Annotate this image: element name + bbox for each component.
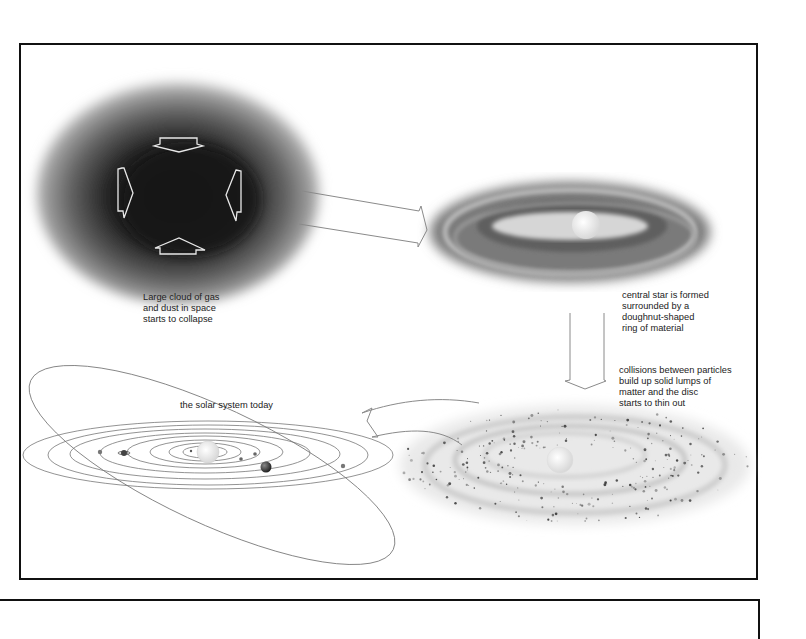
dust-speck (624, 449, 626, 451)
dust-speck (647, 433, 650, 436)
dust-speck (477, 477, 479, 479)
dust-speck (629, 506, 630, 507)
dust-speck (538, 481, 539, 482)
dust-speck (592, 505, 594, 507)
dust-speck (659, 475, 661, 477)
dust-speck (566, 438, 567, 439)
dust-speck (647, 508, 649, 510)
dust-speck (547, 519, 549, 521)
dust-speck (649, 486, 650, 487)
gas-cloud (36, 80, 320, 304)
dust-speck (588, 503, 591, 506)
dust-speck (638, 427, 639, 428)
dust-speck (457, 450, 458, 451)
dust-speck (517, 487, 518, 488)
dust-speck (536, 445, 538, 447)
dust-speck (682, 427, 684, 429)
dust-speck (541, 506, 543, 508)
dust-speck (538, 412, 540, 414)
dust-speck (643, 490, 646, 493)
dust-speck (689, 443, 692, 446)
dust-speck (667, 459, 668, 460)
dust-speck (642, 477, 643, 478)
dust-speck (670, 435, 671, 436)
dust-speck (500, 482, 502, 484)
dust-speck (500, 415, 501, 416)
dust-speck (553, 506, 554, 507)
planet-saturn (121, 450, 127, 456)
dust-speck (543, 483, 544, 484)
dust-speck (604, 481, 607, 484)
dust-speck (636, 462, 637, 463)
dust-speck (622, 486, 623, 487)
dust-speck (594, 440, 595, 441)
dust-speck (454, 471, 456, 473)
dust-speck (645, 486, 647, 488)
dust-speck (554, 489, 555, 490)
dust-speck (422, 481, 424, 483)
dust-speck (512, 474, 513, 475)
dust-speck (429, 484, 431, 486)
dust-speck (440, 471, 442, 473)
dust-speck (518, 515, 520, 517)
dust-speck (436, 479, 438, 481)
dust-speck (655, 460, 656, 461)
dust-speck (514, 457, 516, 459)
dust-speck (555, 512, 558, 515)
dust-speck (461, 450, 463, 452)
dust-speck (509, 476, 511, 478)
dust-speck (625, 517, 627, 519)
dust-speck (432, 472, 433, 473)
dust-speck (717, 489, 718, 490)
dust-speck (664, 486, 666, 488)
dust-speck (522, 448, 523, 449)
dust-speck (486, 470, 489, 473)
dust-speck (557, 521, 558, 522)
dust-speck (552, 514, 555, 517)
dust-speck (479, 446, 480, 447)
dust-speck (457, 437, 459, 439)
dust-speck (614, 441, 616, 443)
dust-speck (691, 464, 693, 466)
dust-speck (703, 455, 705, 457)
dust-speck (454, 502, 456, 504)
dust-speck (512, 421, 515, 424)
dust-speck (670, 499, 672, 501)
dust-speck (510, 449, 512, 451)
dust-speck (647, 500, 648, 501)
dust-speck (589, 419, 591, 421)
dust-speck (531, 442, 533, 444)
dust-speck (631, 486, 633, 488)
dust-speck (613, 447, 614, 448)
dust-speck (645, 458, 647, 460)
dust-speck (639, 517, 640, 518)
dust-speck (674, 469, 675, 470)
solar-system (6, 328, 418, 602)
dust-speck (646, 476, 647, 477)
dust-speck (734, 454, 735, 455)
dust-speck (447, 484, 449, 486)
dust-speck (565, 440, 568, 443)
dust-speck (507, 465, 508, 466)
dust-speck (443, 441, 446, 444)
dust-speck (497, 470, 499, 472)
dust-speck (412, 478, 414, 480)
dust-speck (643, 460, 646, 463)
dust-speck (530, 436, 533, 439)
dust-speck (586, 518, 588, 520)
dust-speck (591, 497, 592, 498)
dust-speck (494, 503, 496, 505)
dust-speck (611, 437, 614, 440)
dust-speck (466, 484, 468, 486)
dust-speck (716, 440, 718, 442)
young-sun (547, 447, 573, 473)
dust-speck (583, 494, 585, 496)
dust-speck (701, 437, 702, 438)
dust-speck (526, 520, 527, 521)
dust-speck (665, 417, 667, 419)
dust-speck (500, 451, 502, 453)
arrow-star-to-collisions (565, 313, 606, 389)
planet (253, 452, 257, 456)
inclined-orbit (6, 328, 418, 602)
dust-speck (689, 499, 692, 502)
